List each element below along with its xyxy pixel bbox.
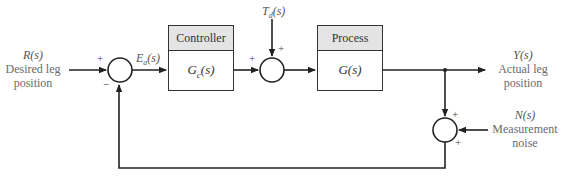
noise-symbol: N(s) [488, 108, 562, 122]
sum2-plus-left: + [249, 52, 255, 64]
sum3-plus-top: + [452, 108, 458, 120]
output-desc-line1: Actual leg [488, 62, 558, 76]
noise-desc-line1: Measurement [488, 122, 562, 136]
process-block: Process G(s) [317, 25, 383, 91]
branch-point [443, 68, 447, 72]
output-symbol: Y(s) [488, 48, 558, 62]
sum1-plus-sign: + [97, 52, 103, 64]
input-symbol: R(s) [2, 48, 64, 62]
input-desc-line2: position [2, 76, 64, 90]
output-desc-line2: position [488, 76, 558, 90]
error-signal-label: Ea(s) [136, 51, 160, 70]
output-label: Y(s) Actual leg position [488, 48, 558, 90]
sum1-minus-sign: − [103, 78, 109, 90]
noise-desc-line2: noise [488, 136, 562, 150]
disturbance-label: Td(s) [262, 4, 285, 23]
controller-title: Controller [169, 26, 233, 51]
diagram-wiring [0, 0, 562, 180]
process-transfer-function: G(s) [318, 51, 382, 89]
controller-block: Controller Gc(s) [168, 25, 234, 91]
process-title: Process [318, 26, 382, 51]
input-label: R(s) Desired leg position [2, 48, 64, 90]
controller-transfer-function: Gc(s) [169, 51, 233, 94]
summing-junction-3 [433, 118, 457, 142]
sum2-plus-top: + [278, 42, 284, 54]
noise-label: N(s) Measurement noise [488, 108, 562, 150]
input-desc-line1: Desired leg [2, 62, 64, 76]
sum3-plus-right: + [455, 136, 461, 148]
summing-junction-2 [260, 58, 284, 82]
summing-junction-1 [108, 58, 132, 82]
feedback-path [119, 85, 445, 168]
